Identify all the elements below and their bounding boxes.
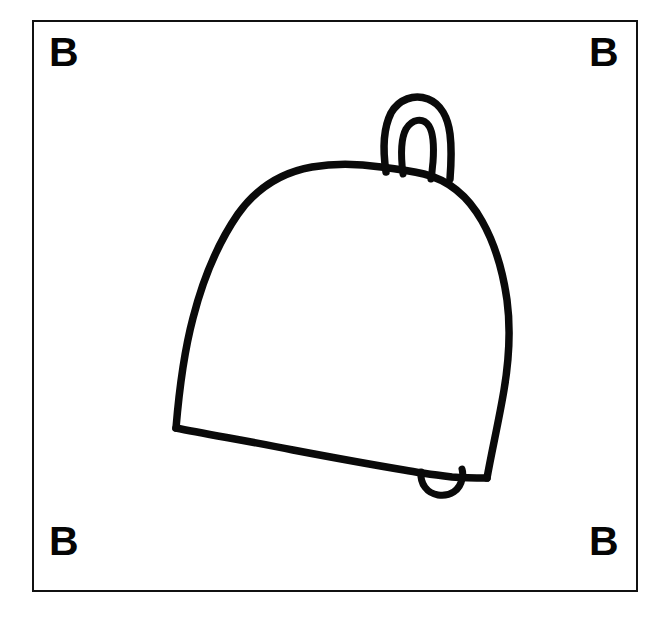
image-canvas: B B B B: [0, 0, 664, 619]
corner-letter-top-right: B: [589, 32, 618, 73]
corner-letter-top-left: B: [49, 32, 78, 73]
corner-letter-bottom-right: B: [589, 521, 618, 562]
card-frame: [32, 20, 638, 592]
corner-letter-bottom-left: B: [49, 521, 78, 562]
